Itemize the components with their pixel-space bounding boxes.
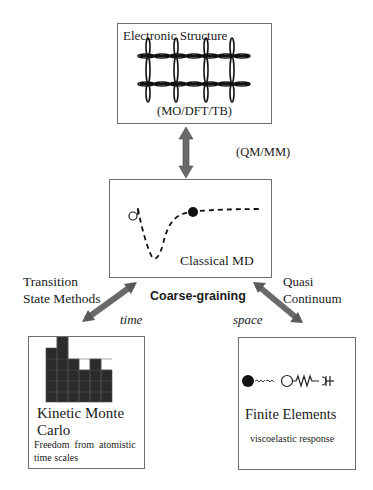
space-axis-label: space <box>233 313 263 326</box>
kmc-title-line1: Kinetic Monte <box>37 406 124 421</box>
transition-state-label-line1: Transition <box>23 275 78 289</box>
double-arrow-qmmm <box>179 127 193 178</box>
finite-elements-title: Finite Elements <box>245 407 336 422</box>
classical-md-title: Classical MD <box>180 254 254 268</box>
quasi-continuum-label-line2: Continuum <box>283 292 342 305</box>
transition-state-label-line2: State Methods <box>23 292 101 306</box>
qmmm-label: (QM/MM) <box>236 146 290 159</box>
quasi-continuum-label-line1: Quasi <box>283 275 313 288</box>
kmc-note-line1: Freedom from atomistic <box>34 440 136 450</box>
kmc-title-line2: Carlo <box>37 423 70 438</box>
kmc-note-line2: time scales <box>34 453 78 463</box>
multiscale-modeling-diagram: Electronic Structure (MO/DFT/TB) (QM/MM)… <box>0 0 373 490</box>
finite-elements-box <box>238 337 356 470</box>
coarse-graining-label: Coarse-graining <box>150 290 246 303</box>
electronic-structure-title: Electronic Structure <box>123 29 227 42</box>
finite-elements-note: viscoelastic response <box>250 434 334 444</box>
time-axis-label: time <box>120 313 142 326</box>
electronic-structure-methods: (MO/DFT/TB) <box>157 105 232 118</box>
